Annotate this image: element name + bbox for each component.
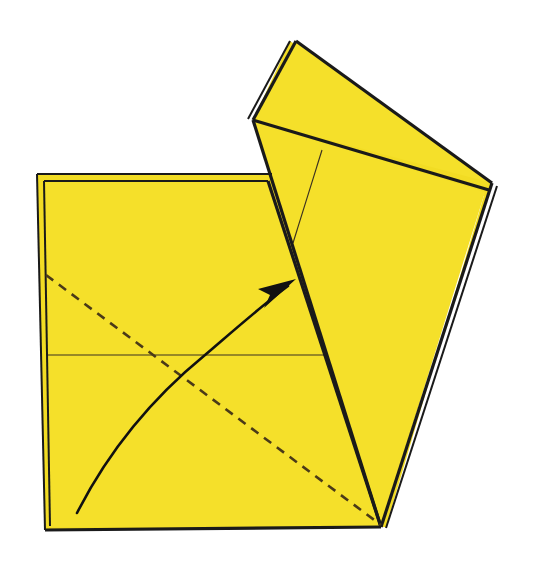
- origami-diagram-root: [0, 0, 536, 567]
- origami-figure: [0, 0, 536, 567]
